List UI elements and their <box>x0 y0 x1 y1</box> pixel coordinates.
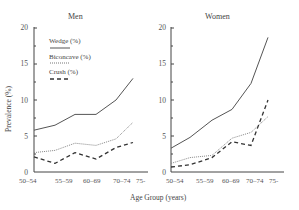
women-series <box>171 37 268 167</box>
women-axes <box>171 27 284 172</box>
men-series <box>34 78 133 163</box>
line-wedge <box>171 37 268 148</box>
men-axes <box>34 27 148 172</box>
chart-canvas <box>0 0 299 210</box>
line-wedge <box>34 78 133 130</box>
line-crush <box>34 143 133 164</box>
line-crush <box>171 100 268 167</box>
